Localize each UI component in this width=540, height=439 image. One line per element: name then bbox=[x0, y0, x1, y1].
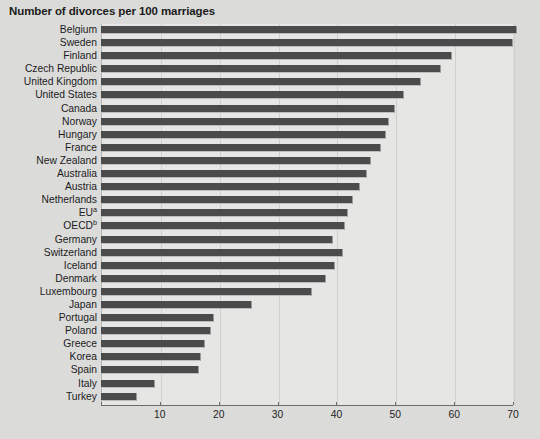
bar bbox=[101, 118, 389, 126]
category-label: Luxembourg bbox=[0, 285, 97, 298]
bar-row: Turkey bbox=[0, 391, 540, 404]
category-label: Japan bbox=[0, 298, 97, 311]
bar bbox=[101, 275, 326, 283]
category-label: Australia bbox=[0, 167, 97, 180]
x-tick bbox=[336, 402, 337, 405]
bar bbox=[101, 170, 367, 178]
bar-rows: BelgiumSwedenFinlandCzech RepublicUnited… bbox=[0, 24, 540, 405]
category-label: New Zealand bbox=[0, 154, 97, 167]
x-axis: 10203040506070 bbox=[0, 405, 540, 439]
category-label: Netherlands bbox=[0, 193, 97, 206]
category-label: EUa bbox=[0, 206, 97, 219]
bar bbox=[101, 131, 386, 139]
category-label: Spain bbox=[0, 363, 97, 376]
category-label: Iceland bbox=[0, 259, 97, 272]
category-label: Finland bbox=[0, 49, 97, 62]
bar bbox=[101, 236, 333, 244]
category-label: Turkey bbox=[0, 390, 97, 403]
x-tick bbox=[278, 402, 279, 405]
category-label: France bbox=[0, 141, 97, 154]
x-tick-label: 70 bbox=[507, 409, 518, 420]
bar bbox=[101, 301, 252, 309]
bar bbox=[101, 288, 312, 296]
bar bbox=[101, 209, 348, 217]
category-label: Austria bbox=[0, 180, 97, 193]
page-title: Number of divorces per 100 marriages bbox=[9, 5, 215, 17]
category-label: Germany bbox=[0, 233, 97, 246]
x-tick-label: 40 bbox=[331, 409, 342, 420]
x-tick-label: 20 bbox=[213, 409, 224, 420]
bar bbox=[101, 78, 421, 86]
bar bbox=[101, 249, 343, 257]
bar bbox=[101, 91, 404, 99]
category-label: United States bbox=[0, 88, 97, 101]
x-tick bbox=[395, 402, 396, 405]
bar bbox=[101, 105, 395, 113]
category-label: Norway bbox=[0, 115, 97, 128]
bar bbox=[101, 144, 381, 152]
bar bbox=[101, 327, 211, 335]
category-label: Belgium bbox=[0, 23, 97, 36]
bar bbox=[101, 314, 214, 322]
category-label: Canada bbox=[0, 102, 97, 115]
x-axis-line bbox=[101, 405, 513, 406]
bar bbox=[101, 196, 353, 204]
footnote-marker: b bbox=[93, 218, 97, 227]
footnote-marker: a bbox=[93, 205, 97, 214]
bar bbox=[101, 393, 137, 401]
category-label: Czech Republic bbox=[0, 62, 97, 75]
x-tick-label: 30 bbox=[272, 409, 283, 420]
category-label: Korea bbox=[0, 350, 97, 363]
x-tick bbox=[219, 402, 220, 405]
category-label: Greece bbox=[0, 337, 97, 350]
category-label: Portugal bbox=[0, 311, 97, 324]
x-tick-label: 50 bbox=[390, 409, 401, 420]
x-tick bbox=[101, 402, 102, 405]
x-tick-label: 10 bbox=[154, 409, 165, 420]
category-label: United Kingdom bbox=[0, 75, 97, 88]
bar bbox=[101, 65, 441, 73]
bar bbox=[101, 340, 205, 348]
x-tick bbox=[454, 402, 455, 405]
bar bbox=[101, 52, 452, 60]
category-label: Italy bbox=[0, 377, 97, 390]
x-tick-label: 60 bbox=[448, 409, 459, 420]
bar bbox=[101, 366, 199, 374]
category-label: Sweden bbox=[0, 36, 97, 49]
bar bbox=[101, 380, 155, 388]
bar bbox=[101, 353, 201, 361]
bar bbox=[101, 26, 517, 34]
category-label: Denmark bbox=[0, 272, 97, 285]
bar bbox=[101, 157, 371, 165]
category-label: Poland bbox=[0, 324, 97, 337]
chart-figure: Number of divorces per 100 marriages Bel… bbox=[0, 0, 540, 439]
category-label: Switzerland bbox=[0, 246, 97, 259]
bar bbox=[101, 262, 335, 270]
bar bbox=[101, 222, 345, 230]
category-label: OECDb bbox=[0, 219, 97, 232]
x-tick bbox=[513, 402, 514, 405]
category-label: Hungary bbox=[0, 128, 97, 141]
bar bbox=[101, 183, 360, 191]
bar bbox=[101, 39, 513, 47]
x-tick bbox=[160, 402, 161, 405]
